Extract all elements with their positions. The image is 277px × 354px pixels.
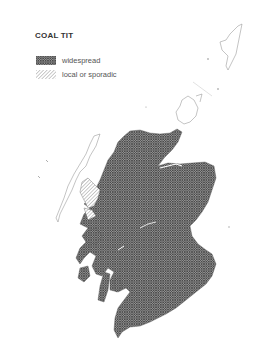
orkney — [176, 96, 198, 124]
legend-item-local: local or sporadic — [36, 70, 117, 79]
shetland — [220, 24, 242, 70]
map-title: COAL TIT — [35, 31, 73, 40]
cross-hatch-swatch-icon — [36, 56, 56, 65]
kintyre — [98, 272, 110, 302]
legend-label: local or sporadic — [62, 70, 117, 79]
islay — [78, 266, 90, 282]
scotland-map — [0, 0, 277, 354]
legend-item-widespread: widespread — [36, 56, 100, 65]
legend-label: widespread — [62, 56, 100, 65]
diagonal-hatch-swatch-icon — [36, 70, 56, 79]
